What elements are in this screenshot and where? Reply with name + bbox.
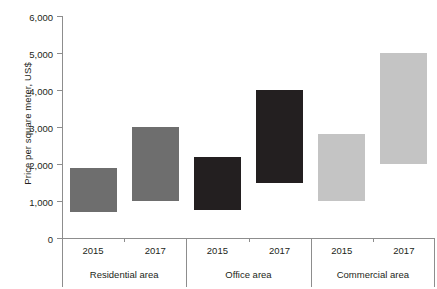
- group-label: Commercial area: [311, 262, 435, 287]
- y-tick: 5,000: [57, 53, 62, 54]
- year-label: 2017: [124, 239, 186, 262]
- y-tick: 6,000: [57, 16, 62, 17]
- bar-residential-area-2017: [132, 127, 179, 201]
- bar-office-area-2017: [256, 90, 303, 183]
- y-tick-label: 0: [48, 233, 53, 244]
- group-labels-row: Residential areaOffice areaCommercial ar…: [62, 262, 435, 287]
- group-separator: [311, 239, 312, 287]
- bar-commercial-area-2015: [318, 134, 365, 201]
- y-tick-label: 5,000: [29, 48, 53, 59]
- y-tick-label: 3,000: [29, 122, 53, 133]
- group-label: Office area: [186, 262, 310, 287]
- y-tick: 1,000: [57, 201, 62, 202]
- year-labels-row: 201520172015201720152017: [62, 239, 435, 262]
- group-separator: [186, 239, 187, 287]
- year-label: 2015: [311, 239, 373, 262]
- y-tick: 3,000: [57, 127, 62, 128]
- year-label: 2015: [62, 239, 124, 262]
- bar-commercial-area-2017: [380, 53, 427, 164]
- y-tick: 4,000: [57, 90, 62, 91]
- y-tick: 2,000: [57, 164, 62, 165]
- category-axis: 201520172015201720152017 Residential are…: [62, 239, 435, 287]
- group-label: Residential area: [62, 262, 186, 287]
- plot-area: 6,0005,0004,0003,0002,0001,0000: [62, 16, 435, 238]
- y-tick-label: 2,000: [29, 159, 53, 170]
- range-bar-chart: Price per square meter, US$ 6,0005,0004,…: [0, 0, 437, 289]
- y-tick-label: 1,000: [29, 196, 53, 207]
- bar-residential-area-2015: [70, 168, 117, 212]
- y-axis-line: [62, 16, 63, 238]
- y-tick-label: 6,000: [29, 11, 53, 22]
- year-label: 2015: [186, 239, 248, 262]
- bar-office-area-2015: [194, 157, 241, 211]
- year-label: 2017: [248, 239, 310, 262]
- year-label: 2017: [373, 239, 435, 262]
- y-tick-label: 4,000: [29, 85, 53, 96]
